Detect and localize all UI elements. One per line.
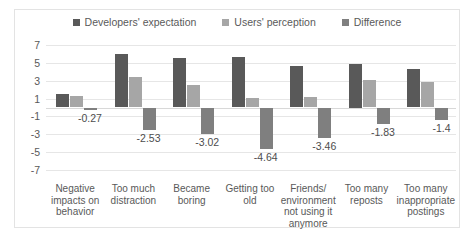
bar-series-0[interactable] [290,66,303,107]
x-axis-category-label: Negative impacts on behavior [46,183,104,229]
bar-series-2[interactable] [435,108,448,121]
bar-series-2[interactable] [377,108,390,124]
bar-groups: -0.27-2.53-3.02-4.64-3.46-1.83-1.4 [46,45,456,170]
x-axis-category-label: Became boring [163,183,221,229]
x-axis-category-label: Getting too old [221,183,279,229]
x-axis-category-label: Too many reposts [337,183,395,229]
y-axis-tick-label: 1 [34,93,40,104]
y-axis-tick-label: 3 [34,75,40,86]
bar-series-2[interactable] [143,108,156,131]
bar-series-0[interactable] [115,54,128,108]
legend-swatch-icon [73,19,80,26]
legend-label: Developers' expectation [85,17,197,28]
bar-series-2[interactable] [318,108,331,139]
bar-chart: Developers' expectationUsers' perception… [0,0,474,246]
data-label: -4.64 [254,152,278,163]
x-axis-category-label: Too much distraction [104,183,162,229]
bar-series-2[interactable] [201,108,214,135]
bar-series-1[interactable] [304,97,317,108]
y-axis: 7531-1-3-5-7 [14,45,44,170]
bar-series-1[interactable] [246,98,259,108]
y-axis-tick-label: 7 [34,40,40,51]
y-axis-tick-label: 5 [34,58,40,69]
bar-group: -3.46 [280,45,339,170]
x-axis-category-label: Friends/ environment not using it anymor… [279,183,337,229]
data-label: -3.02 [195,137,219,148]
y-axis-tick-label: -1 [31,111,40,122]
legend-label: Users' perception [234,17,315,28]
gridline [46,170,456,171]
bars: -1.83 [339,45,398,170]
data-label: -2.53 [137,133,161,144]
bar-series-2[interactable] [260,108,273,149]
bar-group: -2.53 [105,45,164,170]
plot-area: -0.27-2.53-3.02-4.64-3.46-1.83-1.4 [46,45,456,170]
data-label: -3.46 [312,141,336,152]
bar-group: -0.27 [46,45,105,170]
bar-series-0[interactable] [56,94,69,107]
bars: -3.46 [280,45,339,170]
bar-series-0[interactable] [173,58,186,107]
plot-wrapper: 7531-1-3-5-7 -0.27-2.53-3.02-4.64-3.46-1… [14,45,460,180]
y-axis-tick-label: -5 [31,147,40,158]
legend-item-1[interactable]: Users' perception [222,17,315,28]
legend-swatch-icon [222,19,229,26]
x-axis-labels: Negative impacts on behaviorToo much dis… [46,183,456,229]
legend-swatch-icon [342,19,349,26]
bar-series-0[interactable] [349,64,362,108]
bar-group: -1.4 [397,45,456,170]
bar-series-1[interactable] [187,85,200,107]
bar-group: -3.02 [163,45,222,170]
legend-item-2[interactable]: Difference [342,17,402,28]
data-label: -1.4 [432,123,450,134]
bar-group: -4.64 [222,45,281,170]
bar-series-2[interactable] [84,108,97,110]
legend-item-0[interactable]: Developers' expectation [73,17,197,28]
legend-label: Difference [354,17,402,28]
bar-series-1[interactable] [129,77,142,107]
bars: -4.64 [222,45,281,170]
bar-series-0[interactable] [232,57,245,108]
bar-series-1[interactable] [70,96,83,108]
y-axis-tick-label: -3 [31,129,40,140]
chart-legend: Developers' expectationUsers' perception… [0,17,474,28]
x-axis-category-label: Too many inappropriate postings [396,183,456,229]
bar-group: -1.83 [339,45,398,170]
bars: -2.53 [105,45,164,170]
bar-series-1[interactable] [363,80,376,108]
y-axis-tick-label: -7 [31,165,40,176]
data-label: -0.27 [78,113,102,124]
data-label: -1.83 [371,127,395,138]
bars: -3.02 [163,45,222,170]
bar-series-0[interactable] [407,69,420,107]
bar-series-1[interactable] [421,82,434,108]
bars: -1.4 [397,45,456,170]
bars: -0.27 [46,45,105,170]
